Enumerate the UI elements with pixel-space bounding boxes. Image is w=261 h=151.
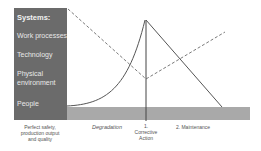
degradation-curve bbox=[67, 20, 145, 106]
start-label: Perfect safety, production output and qu… bbox=[10, 124, 70, 142]
maintenance-label: 2. Maintenance bbox=[168, 124, 218, 130]
degradation-label: Degradation bbox=[82, 124, 132, 130]
start-label-line3: and quality bbox=[10, 136, 70, 142]
corrective-action-label: 1. Corrective Action bbox=[131, 123, 161, 141]
maintenance-line bbox=[146, 20, 222, 107]
corrective-label-line3: Action bbox=[131, 135, 161, 141]
